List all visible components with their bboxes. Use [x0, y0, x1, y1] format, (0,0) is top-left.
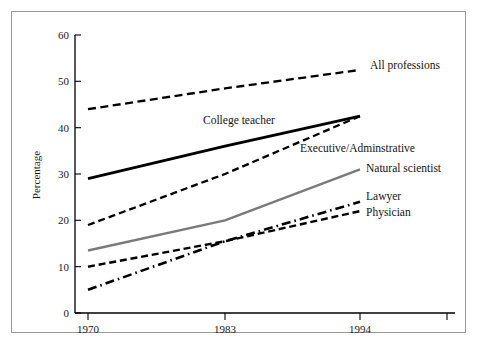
y-tick-label-40: 40 [58, 122, 70, 134]
series-label-college-teacher: College teacher [203, 114, 275, 127]
x-tick-label-1983: 1983 [214, 323, 237, 335]
series-line-natural-scientist [88, 169, 360, 250]
y-tick-label-10: 10 [58, 261, 70, 273]
series-line-executive-administrative [88, 116, 360, 225]
series-label-all-professions: All professions [370, 59, 440, 72]
y-tick-label-50: 50 [58, 75, 70, 87]
y-axis-title: Percentage [30, 151, 42, 199]
y-tick-label-0: 0 [64, 307, 70, 319]
x-axis-ticks [88, 313, 447, 320]
series-label-executive-administrative: Executive/Adminstrative [300, 142, 415, 154]
series-label-lawyer: Lawyer [366, 190, 401, 203]
y-tick-label-20: 20 [58, 214, 70, 226]
line-chart: 60 50 40 30 20 10 0 1970 1983 1994 Perce… [0, 0, 478, 344]
y-tick-label-60: 60 [58, 29, 70, 41]
series-label-physician: Physician [366, 206, 411, 219]
series-line-all-professions [88, 70, 360, 109]
x-tick-label-1994: 1994 [349, 323, 372, 335]
chart-figure: 60 50 40 30 20 10 0 1970 1983 1994 Perce… [0, 0, 478, 344]
series-line-lawyer [88, 202, 360, 290]
x-tick-label-1970: 1970 [77, 323, 100, 335]
y-tick-label-30: 30 [58, 168, 70, 180]
series-label-natural-scientist: Natural scientist [366, 162, 442, 174]
y-axis-ticks [75, 35, 81, 313]
